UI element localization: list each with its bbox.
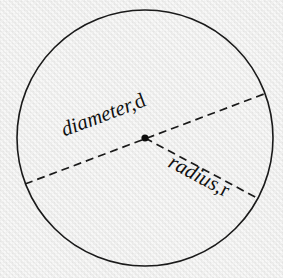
diagram-canvas (0, 0, 283, 278)
center-dot (141, 134, 148, 141)
circle-diagram-figure: diameter,d radius,r (0, 0, 283, 278)
